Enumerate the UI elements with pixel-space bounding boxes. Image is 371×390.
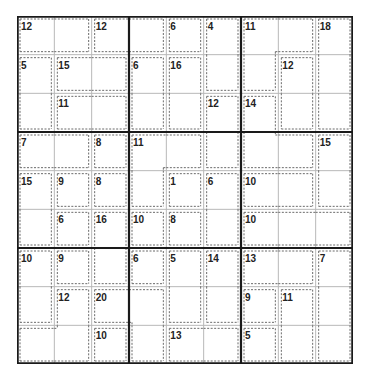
cage-sum-clue: 5 bbox=[170, 254, 176, 264]
cage-sum-clue: 16 bbox=[96, 215, 107, 225]
cell[interactable] bbox=[17, 209, 54, 248]
cell[interactable] bbox=[166, 93, 203, 132]
cage-sum-clue: 4 bbox=[208, 22, 214, 32]
cage-sum-clue: 9 bbox=[58, 254, 64, 264]
cage-sum-clue: 8 bbox=[96, 177, 102, 187]
cell[interactable] bbox=[316, 55, 353, 94]
killer-sudoku-board[interactable]: 1212641118515616121112147811151598161061… bbox=[17, 16, 353, 364]
cage-sum-clue: 12 bbox=[58, 293, 69, 303]
cell[interactable] bbox=[316, 93, 353, 132]
cell[interactable] bbox=[129, 325, 166, 364]
cage-sum-clue: 6 bbox=[208, 177, 214, 187]
cell[interactable] bbox=[316, 287, 353, 326]
cell[interactable] bbox=[278, 325, 315, 364]
cage-sum-clue: 12 bbox=[21, 22, 32, 32]
cage-sum-clue: 7 bbox=[320, 254, 326, 264]
cell[interactable] bbox=[316, 325, 353, 364]
cage-sum-clue: 16 bbox=[170, 61, 181, 71]
cell[interactable] bbox=[204, 325, 241, 364]
cell[interactable] bbox=[54, 132, 91, 171]
cage-sum-clue: 15 bbox=[21, 177, 32, 187]
cell[interactable] bbox=[129, 16, 166, 55]
cell[interactable] bbox=[17, 287, 54, 326]
cage-sum-clue: 9 bbox=[58, 177, 64, 187]
cage-sum-clue: 13 bbox=[170, 331, 181, 341]
cage-sum-clue: 12 bbox=[282, 61, 293, 71]
cage-sum-clue: 11 bbox=[245, 22, 256, 32]
cell[interactable] bbox=[166, 132, 203, 171]
cell[interactable] bbox=[204, 55, 241, 94]
cell[interactable] bbox=[241, 55, 278, 94]
cage-sum-clue: 11 bbox=[133, 138, 144, 148]
cell[interactable] bbox=[166, 287, 203, 326]
cell[interactable] bbox=[278, 248, 315, 287]
cell[interactable] bbox=[278, 171, 315, 210]
cell[interactable] bbox=[129, 93, 166, 132]
cell[interactable] bbox=[316, 171, 353, 210]
cage-sum-clue: 10 bbox=[245, 177, 256, 187]
cell[interactable] bbox=[92, 55, 129, 94]
cage-sum-clue: 13 bbox=[245, 254, 256, 264]
cell[interactable] bbox=[316, 209, 353, 248]
cage-sum-clue: 12 bbox=[208, 99, 219, 109]
cage-sum-clue: 11 bbox=[58, 99, 69, 109]
cell[interactable] bbox=[17, 325, 54, 364]
cage-sum-clue: 8 bbox=[96, 138, 102, 148]
cage-sum-clue: 14 bbox=[208, 254, 219, 264]
cage-sum-clue: 15 bbox=[58, 61, 69, 71]
cell[interactable] bbox=[278, 132, 315, 171]
cage-sum-clue: 7 bbox=[21, 138, 27, 148]
cell[interactable] bbox=[92, 93, 129, 132]
cage-sum-clue: 9 bbox=[245, 293, 251, 303]
cage-sum-clue: 15 bbox=[320, 138, 331, 148]
cell[interactable] bbox=[241, 132, 278, 171]
cage-sum-clue: 11 bbox=[282, 293, 293, 303]
cage-sum-clue: 10 bbox=[21, 254, 32, 264]
cage-sum-clue: 10 bbox=[245, 215, 256, 225]
cage-sum-clue: 8 bbox=[170, 215, 176, 225]
cage-sum-clue: 10 bbox=[133, 215, 144, 225]
cage-sum-clue: 6 bbox=[133, 254, 139, 264]
cell[interactable] bbox=[204, 132, 241, 171]
cell[interactable] bbox=[278, 93, 315, 132]
cage-sum-clue: 6 bbox=[58, 215, 64, 225]
cell[interactable] bbox=[54, 16, 91, 55]
cage-sum-clue: 18 bbox=[320, 22, 331, 32]
cage-sum-clue: 5 bbox=[245, 331, 251, 341]
cell[interactable] bbox=[129, 287, 166, 326]
cell[interactable] bbox=[204, 287, 241, 326]
cage-sum-clue: 6 bbox=[133, 61, 139, 71]
cage-sum-clue: 10 bbox=[96, 331, 107, 341]
cell[interactable] bbox=[92, 248, 129, 287]
cage-sum-clue: 5 bbox=[21, 61, 27, 71]
cell[interactable] bbox=[17, 93, 54, 132]
cell[interactable] bbox=[129, 171, 166, 210]
cage-sum-clue: 14 bbox=[245, 99, 256, 109]
cell[interactable] bbox=[278, 209, 315, 248]
cage-sum-clue: 6 bbox=[170, 22, 176, 32]
cage-sum-clue: 20 bbox=[96, 293, 107, 303]
cage-sum-clue: 1 bbox=[170, 177, 176, 187]
cell[interactable] bbox=[204, 209, 241, 248]
cell[interactable] bbox=[278, 16, 315, 55]
cell[interactable] bbox=[54, 325, 91, 364]
cage-sum-clue: 12 bbox=[96, 22, 107, 32]
